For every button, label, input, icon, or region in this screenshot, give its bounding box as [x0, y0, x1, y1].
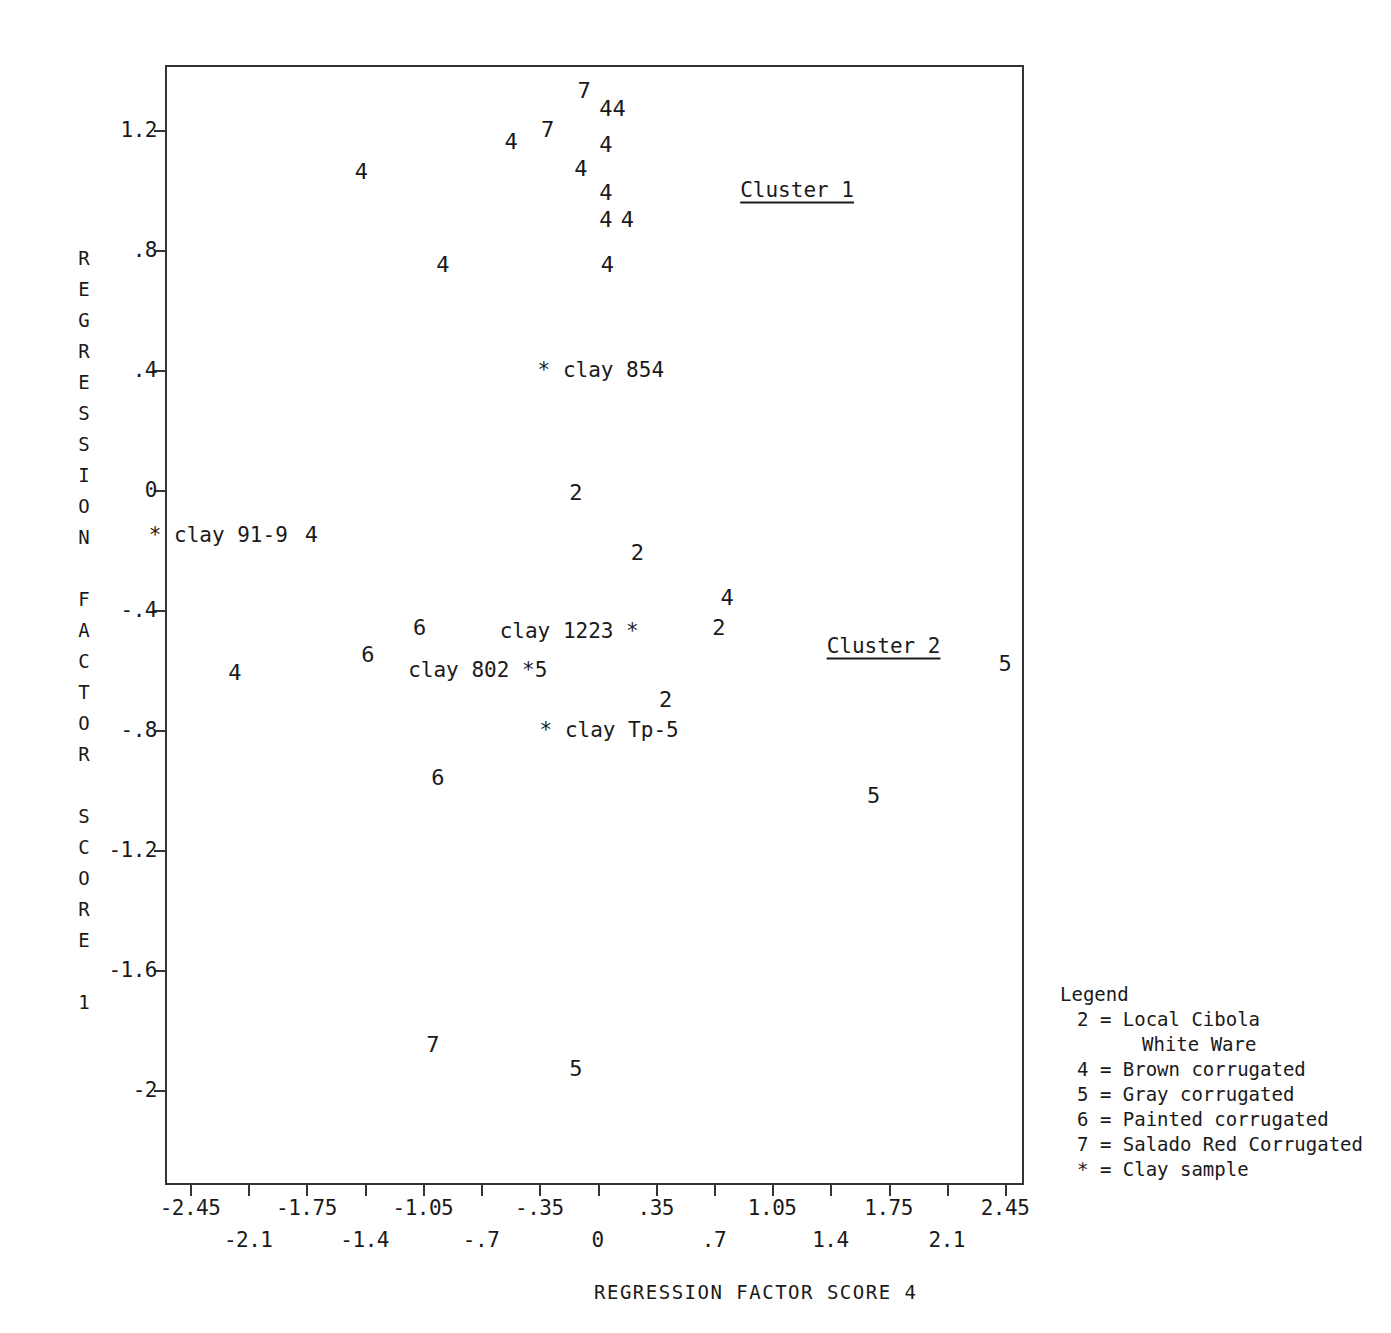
y-axis-title-char: C: [72, 646, 96, 677]
x-axis-tick-label: -1.75: [276, 1196, 337, 1220]
data-point-4: 4: [599, 182, 612, 204]
y-axis-title-char: O: [72, 863, 96, 894]
legend-item-4: 4 = Brown corrugated: [1060, 1057, 1363, 1082]
y-axis-tick-label: .4: [133, 358, 157, 382]
y-axis-tick-label: -.4: [121, 598, 157, 622]
x-axis-tick-label: .35: [637, 1196, 673, 1220]
x-axis-tick: [947, 1185, 949, 1196]
annotation-cluster-1: Cluster 1: [740, 180, 854, 201]
x-axis-tick-label: -2.45: [160, 1196, 221, 1220]
legend-item-*: * = Clay sample: [1060, 1157, 1363, 1182]
annotation-cluster-2: Cluster 2: [827, 636, 941, 657]
x-axis-tick: [248, 1185, 250, 1196]
data-point-7: 7: [541, 119, 554, 141]
annotation-clay-tp-5: * clay Tp-5: [540, 720, 679, 741]
data-point-2: 2: [712, 617, 725, 639]
y-axis-title-char: E: [72, 925, 96, 956]
y-axis-tick-label: .8: [133, 238, 157, 262]
y-axis-title-char: G: [72, 305, 96, 336]
x-axis-tick-label: -.35: [515, 1196, 564, 1220]
y-axis-title-char: O: [72, 491, 96, 522]
y-axis-title-char: E: [72, 367, 96, 398]
data-point-4: 4: [599, 134, 612, 156]
y-axis-tick-label: -2: [133, 1078, 157, 1102]
x-axis-tick: [1005, 1185, 1007, 1196]
y-axis-title: REGRESSION FACTOR SCORE 1: [72, 243, 96, 1018]
data-point-7: 7: [426, 1034, 439, 1056]
y-axis-title-char: S: [72, 801, 96, 832]
x-axis-tick: [889, 1185, 891, 1196]
y-axis-tick-label: -1.2: [108, 838, 157, 862]
x-axis-tick-label: 2.1: [929, 1228, 965, 1252]
data-point-7: 7: [578, 80, 591, 102]
data-point-2: 2: [659, 689, 672, 711]
y-axis-title-char: 1: [72, 987, 96, 1018]
legend-title: Legend: [1060, 982, 1363, 1007]
y-axis-title-char: S: [72, 429, 96, 460]
x-axis-tick: [714, 1185, 716, 1196]
y-axis-tick-label: -1.6: [108, 958, 157, 982]
y-axis-title-gap: [72, 770, 96, 801]
x-axis-tick: [772, 1185, 774, 1196]
y-axis-title-char: T: [72, 677, 96, 708]
y-axis-title-char: R: [72, 336, 96, 367]
y-axis-title-char: O: [72, 708, 96, 739]
data-point-4: 4: [355, 161, 368, 183]
x-axis-tick: [830, 1185, 832, 1196]
data-point-4: 4: [601, 254, 614, 276]
annotation-clay-802-5: clay 802 *5: [408, 660, 547, 681]
legend-item-6: 6 = Painted corrugated: [1060, 1107, 1363, 1132]
data-point-6: 6: [413, 617, 426, 639]
y-axis-title-char: R: [72, 243, 96, 274]
data-point-5: 5: [998, 653, 1011, 675]
x-axis-tick: [365, 1185, 367, 1196]
data-point-4: 4: [621, 209, 634, 231]
x-axis-tick-label: -2.1: [224, 1228, 273, 1252]
y-axis-title-char: R: [72, 894, 96, 925]
x-axis-title: REGRESSION FACTOR SCORE 4: [594, 1281, 917, 1303]
data-point-4: 4: [436, 254, 449, 276]
annotation-clay-91-9: * clay 91-9: [149, 525, 288, 546]
data-point-2: 2: [631, 542, 644, 564]
data-point-4: 4: [228, 662, 241, 684]
data-point-6: 6: [431, 767, 444, 789]
x-axis-tick-label: -1.4: [340, 1228, 389, 1252]
x-axis-tick: [190, 1185, 192, 1196]
scatter-plot-figure: -2.45-1.75-1.05-.35.351.051.752.45 -2.1-…: [0, 0, 1391, 1333]
data-point-4: 4: [574, 158, 587, 180]
y-axis-title-char: A: [72, 615, 96, 646]
y-axis-title-gap: [72, 956, 96, 987]
x-axis-tick-label: 1.75: [864, 1196, 913, 1220]
data-point-4: 4: [599, 98, 612, 120]
data-point-4: 4: [504, 131, 517, 153]
x-axis-tick: [598, 1185, 600, 1196]
y-axis-title-char: E: [72, 274, 96, 305]
x-axis-tick-label: 1.05: [748, 1196, 797, 1220]
x-axis-tick-label: 2.45: [981, 1196, 1030, 1220]
y-axis-title-gap: [72, 553, 96, 584]
y-axis-title-char: F: [72, 584, 96, 615]
y-axis-tick-label: -.8: [121, 718, 157, 742]
data-point-6: 6: [361, 644, 374, 666]
x-axis-tick: [481, 1185, 483, 1196]
x-axis-tick: [539, 1185, 541, 1196]
y-axis-title-char: R: [72, 739, 96, 770]
x-axis-tick-label: 0: [591, 1228, 603, 1252]
x-axis-tick-label: 1.4: [812, 1228, 848, 1252]
y-axis-title-char: S: [72, 398, 96, 429]
legend-item-7: 7 = Salado Red Corrugated: [1060, 1132, 1363, 1157]
data-point-5: 5: [867, 785, 880, 807]
data-point-4: 4: [599, 209, 612, 231]
legend-item-2-continuation: White Ware: [1060, 1032, 1363, 1057]
x-axis-tick-label: -1.05: [392, 1196, 453, 1220]
annotation-clay-1223: clay 1223 *: [500, 621, 639, 642]
data-point-4: 4: [612, 98, 625, 120]
y-axis-tick-label: 1.2: [121, 118, 157, 142]
legend-item-5: 5 = Gray corrugated: [1060, 1082, 1363, 1107]
x-axis-tick-label: -.7: [463, 1228, 499, 1252]
data-point-2: 2: [569, 482, 582, 504]
y-axis-title-char: N: [72, 522, 96, 553]
data-point-4: 4: [305, 524, 318, 546]
data-point-4: 4: [721, 587, 734, 609]
legend: Legend2 = Local CibolaWhite Ware4 = Brow…: [1060, 982, 1363, 1182]
